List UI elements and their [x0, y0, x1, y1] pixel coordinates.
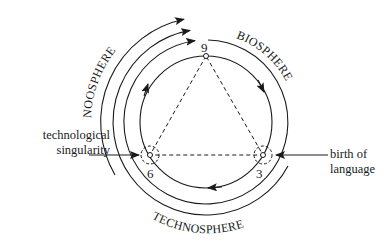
sphere-cycle-diagram: 9 6 3 NOOSPHERE BIOSPHERE TECHNOSPHERE t… [0, 0, 387, 248]
point-3-label: 3 [256, 166, 263, 181]
noosphere-label: NOOSPHERE [80, 44, 118, 119]
noosphere-arc [101, 19, 184, 175]
biosphere-label: BIOSPHERE [235, 28, 296, 84]
diagram-canvas: 9 6 3 NOOSPHERE BIOSPHERE TECHNOSPHERE [0, 0, 387, 248]
point-6-label: 6 [147, 166, 154, 181]
point-3-dot [261, 153, 266, 158]
arrow-left-icon [208, 187, 222, 188]
annotation-line: technological [43, 128, 110, 143]
arrow-down-right-icon [258, 80, 264, 92]
annotation-line: language [330, 162, 375, 177]
point-9-label: 9 [201, 40, 208, 55]
technological-singularity-annotation: technological singularity [43, 128, 110, 158]
birth-of-language-annotation: birth of language [330, 147, 375, 177]
inner-cycle-circle [140, 56, 272, 188]
annotation-line: singularity [43, 143, 110, 158]
dashed-triangle [150, 56, 263, 155]
point-6-dot [148, 153, 153, 158]
technosphere-label: TECHNOSPHERE [150, 209, 245, 237]
annotation-line: birth of [330, 147, 375, 162]
